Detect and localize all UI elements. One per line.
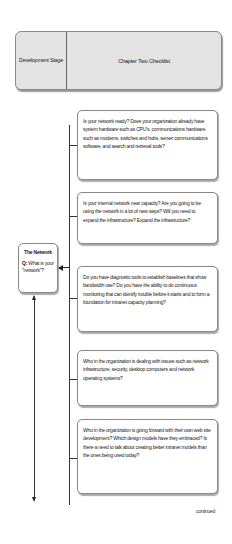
bracket-line [69, 125, 70, 505]
connector-tick [69, 379, 77, 380]
connector-tick [69, 298, 77, 299]
stage-question: What is your "network"? [22, 260, 54, 274]
checklist-item-text: Who in the organization is going forward… [83, 427, 211, 458]
question-prefix: Q: [22, 260, 27, 266]
checklist-item: Do you have diagnostic tools to establis… [77, 266, 218, 332]
arrow-down-icon [32, 497, 36, 502]
checklist-title: Chapter Two Checklist [67, 32, 221, 89]
checklist-item: Who in the organization is dealing with … [77, 350, 218, 406]
vertical-arrow-line [34, 296, 35, 500]
checklist-item: Is your internal network near capacity? … [77, 192, 218, 244]
stage-box-the-network: The Network Q: What is your "network"? [18, 243, 58, 293]
connector-tick [69, 458, 77, 459]
checklist-item-text: Is your network ready? Does your organiz… [83, 118, 207, 149]
development-stage-label: Development Stage [16, 32, 67, 89]
continued-label: continued [196, 508, 215, 514]
stage-title: The Network [22, 249, 54, 257]
checklist-header: Development Stage Chapter Two Checklist [15, 31, 222, 90]
checklist-item: Who in the organization is going forward… [77, 419, 218, 494]
checklist-item: Is your network ready? Does your organiz… [77, 110, 218, 180]
left-arrow-icon [58, 265, 63, 271]
connector-tick [69, 145, 77, 146]
checklist-item-text: Who in the organization is dealing with … [83, 358, 209, 381]
checklist-item-text: Is your internal network near capacity? … [83, 200, 201, 223]
checklist-item-text: Do you have diagnostic tools to establis… [83, 274, 209, 305]
connector-tick [69, 216, 77, 217]
